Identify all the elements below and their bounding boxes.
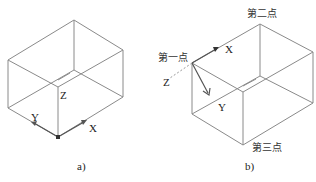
axis-label-x-b: X xyxy=(225,44,233,55)
point-label-first: 第一点 xyxy=(158,53,188,63)
point-label-second: 第二点 xyxy=(247,9,277,19)
caption-a: a) xyxy=(77,161,86,172)
box-a xyxy=(8,20,123,137)
ucs-axes-a xyxy=(31,120,87,139)
box-b xyxy=(192,24,313,145)
axis-label-y-a: Y xyxy=(31,112,39,123)
axis-label-x-a: X xyxy=(89,123,97,134)
axis-label-y-b: Y xyxy=(218,102,226,113)
axis-label-z-a: Z xyxy=(60,90,67,101)
axis-label-z-b: Z xyxy=(163,77,170,88)
caption-b: b) xyxy=(245,161,254,172)
point-label-third: 第三点 xyxy=(252,143,282,153)
diagram-canvas xyxy=(0,0,316,182)
